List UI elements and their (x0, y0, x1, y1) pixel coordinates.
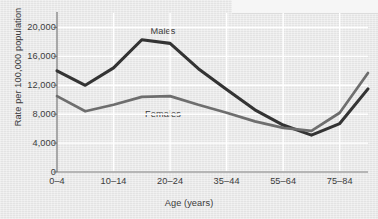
data-series (57, 40, 368, 135)
gridlines (57, 13, 368, 172)
line-chart: Rate per 100,000 population Age (years) … (0, 0, 378, 219)
plot-canvas (0, 0, 378, 219)
axis-lines (54, 12, 369, 172)
